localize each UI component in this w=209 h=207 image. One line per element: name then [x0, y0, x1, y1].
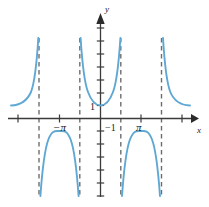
secant-branch-right-negative — [122, 131, 160, 196]
secant-function-graph: y x −π π 1 −1 — [0, 0, 209, 207]
x-tick-label-pi: π — [136, 122, 142, 133]
secant-branch-left-negative — [40, 131, 78, 196]
y-tick-label-neg-one: −1 — [105, 123, 116, 133]
plot-canvas — [0, 0, 209, 207]
secant-branch-left-outer — [11, 38, 38, 106]
y-tick-label-one: 1 — [90, 102, 95, 112]
x-axis-arrowhead — [191, 114, 199, 123]
x-tick-label-neg-pi: −π — [53, 122, 66, 133]
y-axis-arrowhead — [96, 13, 104, 24]
x-axis-label: x — [197, 126, 201, 135]
secant-branch-right-outer — [163, 38, 190, 106]
y-axis-label: y — [105, 5, 109, 14]
